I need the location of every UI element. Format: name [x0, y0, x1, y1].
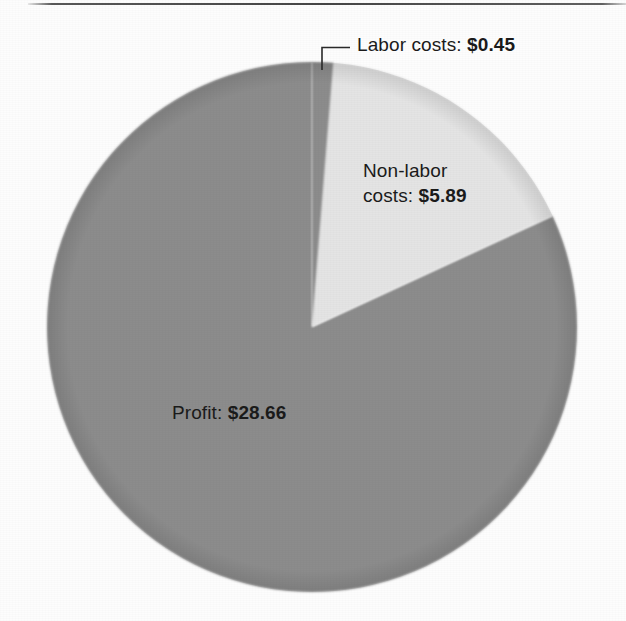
pie-chart-svg: [0, 0, 626, 621]
slice-label-non-labor-costs-amount: $5.89: [419, 185, 467, 206]
slice-label-non-labor-costs-line2: costs: $5.89: [363, 183, 467, 208]
slice-label-non-labor-costs: Non-laborcosts: $5.89: [363, 158, 467, 208]
slice-label-labor-costs-amount: $0.45: [467, 34, 515, 55]
pie-outer-edge: [47, 62, 577, 592]
slice-label-non-labor-costs-text: costs:: [363, 185, 419, 206]
slice-label-non-labor-costs-line1: Non-labor: [363, 158, 467, 183]
slice-label-profit-amount: $28.66: [228, 402, 287, 423]
slice-label-profit: Profit: $28.66: [172, 400, 286, 425]
slice-label-profit-text: Profit:: [172, 402, 228, 423]
pie-chart-figure: Labor costs: $0.45 Non-laborcosts: $5.89…: [0, 0, 626, 621]
chart-plot-area: Labor costs: $0.45 Non-laborcosts: $5.89…: [0, 0, 626, 621]
slice-label-labor-costs-text: Labor costs:: [357, 34, 467, 55]
slice-label-labor-costs: Labor costs: $0.45: [357, 32, 515, 57]
top-horizontal-rule: [28, 3, 626, 5]
